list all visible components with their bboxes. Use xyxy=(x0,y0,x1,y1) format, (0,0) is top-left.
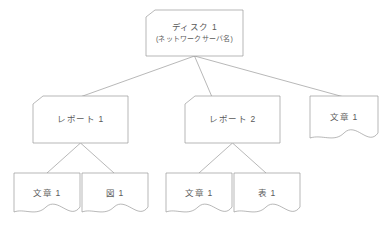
node-label-root: ディスク 1 (ネットワークサーバ名) xyxy=(146,22,243,44)
node-label-doc-top: 文章 1 xyxy=(310,112,378,123)
node-label-doc-r1-text: 文章 1 xyxy=(33,188,61,198)
node-label-doc-r1: 文章 1 xyxy=(14,188,80,199)
edge-report2-to-doc-r2 xyxy=(199,143,233,173)
node-label-report2: レポート 2 xyxy=(185,114,280,125)
node-label-report1: レポート 1 xyxy=(33,114,128,125)
node-label-fig-r1-text: 図 1 xyxy=(106,188,124,198)
edge-root-to-report2 xyxy=(195,56,213,97)
edge-group-root xyxy=(80,56,344,97)
node-label-report2-text: レポート 2 xyxy=(209,114,256,124)
node-label-doc-top-text: 文章 1 xyxy=(330,112,358,122)
node-label-doc-r2: 文章 1 xyxy=(166,188,232,199)
node-label-fig-r1: 図 1 xyxy=(82,188,148,199)
edge-report1-to-doc-r1 xyxy=(47,143,81,173)
edge-report1-to-fig-r1 xyxy=(81,143,115,173)
node-label-doc-r2-text: 文章 1 xyxy=(185,188,213,198)
node-label-report1-text: レポート 1 xyxy=(57,114,104,124)
edge-root-to-report1 xyxy=(80,56,195,97)
node-label-table-r2: 表 1 xyxy=(234,188,300,199)
edge-group-report2 xyxy=(199,143,266,173)
node-label-table-r2-text: 表 1 xyxy=(258,188,276,198)
edge-report2-to-table-r2 xyxy=(233,143,267,173)
node-label-root-text: ディスク 1 xyxy=(172,22,218,32)
diagram-canvas: ディスク 1 (ネットワークサーバ名) レポート 1 レポート 2 文章 1 文… xyxy=(0,0,388,232)
node-label-root-subtext: (ネットワークサーバ名) xyxy=(146,33,243,44)
edge-root-to-doc-top xyxy=(195,56,345,97)
edge-group-report1 xyxy=(47,143,114,173)
